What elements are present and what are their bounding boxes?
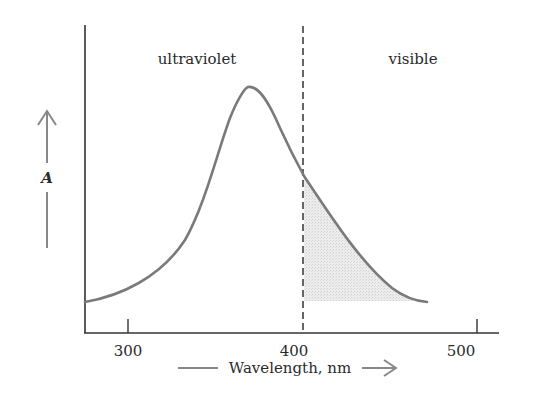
chart-svg: ultraviolet visible A 300 400 500 Wavele… — [0, 0, 541, 396]
x-axis-arrow — [362, 360, 396, 376]
absorption-spectrum-chart: ultraviolet visible A 300 400 500 Wavele… — [0, 0, 541, 396]
x-tick-label-400: 400 — [280, 342, 309, 360]
x-tick-label-500: 500 — [447, 342, 476, 360]
visible-label: visible — [387, 50, 437, 68]
ultraviolet-label: ultraviolet — [158, 50, 237, 68]
x-axis-title: Wavelength, nm — [229, 359, 351, 377]
absorption-curve — [85, 87, 427, 302]
x-tick-label-300: 300 — [114, 342, 143, 360]
y-axis-label: A — [39, 169, 53, 187]
shaded-visible-absorbance — [304, 176, 416, 301]
